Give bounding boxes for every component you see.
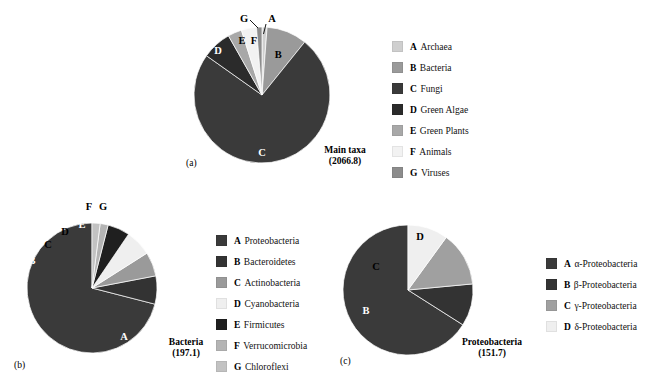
legend-swatch-icon [216,340,227,351]
legend-a-label: Viruses [421,168,449,178]
pie-slice-label-c: C [44,239,52,250]
legend-a-key: D [410,105,417,115]
panel-label-b: (b) [14,360,25,370]
legend-c-key: D [564,322,571,332]
legend-a-key: C [410,84,417,94]
panel-label-a: (a) [186,158,197,168]
legend-swatch-icon [392,167,403,178]
legend-b-label: Proteobacteria [244,236,299,246]
legend-a-label: Archaea [420,42,452,52]
legend-b-item-g: GChloroflexi [216,356,307,377]
legend-b-item-a: AProteobacteria [216,230,307,251]
legend-b-key: B [234,257,240,267]
legend-c-item-a: Aα-Proteobacteria [546,253,637,274]
legend-swatch-icon [216,256,227,267]
panel-label-c: (c) [340,356,351,366]
pie-slice-label-b: B [275,49,282,60]
legend-c-item-d: Dδ-Proteobacteria [546,316,637,337]
legend-b-key: C [234,278,241,288]
legend-c-key: B [564,280,570,290]
pie-slice-label-d: D [61,226,69,237]
legend-a-key: F [410,147,416,157]
pie-slice-label-c: C [258,147,266,158]
pie-slice-label-c: C [372,261,380,272]
legend-swatch-icon [216,361,227,372]
legend-a-item-b: BBacteria [392,57,469,78]
caption-a: Main taxa (2066.8) [295,145,395,167]
legend-c: Aα-ProteobacteriaBβ-ProteobacteriaCγ-Pro… [546,253,637,337]
pie-slice-label-e: E [238,35,245,46]
legend-b-item-e: EFirmicutes [216,314,307,335]
legend-swatch-icon [392,146,403,157]
caption-a-title: Main taxa [295,145,395,156]
legend-b-label: Chloroflexi [245,362,289,372]
legend-c-label: δ-Proteobacteria [574,322,637,332]
pie-slice-label-a: A [120,331,128,342]
legend-b-item-c: CActinobacteria [216,272,307,293]
legend-b: AProteobacteriaBBacteroidetesCActinobact… [216,230,307,377]
legend-a-item-f: FAnimals [392,141,469,162]
legend-a-key: E [410,126,416,136]
legend-a-item-d: DGreen Algae [392,99,469,120]
pie-slice-label-g: G [99,201,107,212]
legend-swatch-icon [546,279,557,290]
legend-b-key: G [234,362,241,372]
legend-c-label: β-Proteobacteria [574,280,637,290]
legend-b-key: E [234,320,240,330]
legend-swatch-icon [392,41,403,52]
legend-swatch-icon [392,125,403,136]
pie-slice-label-f: F [86,201,92,212]
pie-leader-line-g [250,20,258,28]
legend-a-item-e: EGreen Plants [392,120,469,141]
legend-swatch-icon [216,298,227,309]
caption-c-title: Proteobacteria [437,337,547,348]
legend-swatch-icon [216,235,227,246]
caption-c-total: (151.7) [437,348,547,359]
caption-c: Proteobacteria (151.7) [437,337,547,359]
legend-c-item-c: Cγ-Proteobacteria [546,295,637,316]
legend-b-label: Cyanobacteria [244,299,299,309]
pie-slice-label-b: B [28,255,35,266]
legend-a-label: Green Plants [420,126,469,136]
pie-slice-label-b: B [362,305,369,316]
legend-b-label: Actinobacteria [244,278,300,288]
caption-a-total: (2066.8) [295,156,395,167]
legend-b-item-f: FVerrucomicrobia [216,335,307,356]
legend-swatch-icon [392,62,403,73]
legend-a-label: Fungi [420,84,442,94]
figure-root: ABCDEFG Main taxa (2066.8) (a) AArchaeaB… [0,0,672,388]
legend-a-item-g: GViruses [392,162,469,183]
pie-chart-c: ABCD [330,222,495,384]
legend-a-key: A [410,42,417,52]
legend-b-label: Firmicutes [244,320,285,330]
pie-slice-label-g: G [240,13,248,24]
legend-b-label: Verrucomicrobia [243,341,307,351]
legend-c-label: γ-Proteobacteria [574,301,636,311]
legend-a-item-a: AArchaea [392,36,469,57]
legend-b-key: F [234,341,240,351]
pie-slice-label-e: E [78,219,85,230]
legend-swatch-icon [216,319,227,330]
pie-slice-label-f: F [251,35,257,46]
legend-c-key: C [564,301,571,311]
legend-a-key: G [410,168,417,178]
pie-slice-label-a: A [268,13,276,24]
legend-swatch-icon [546,300,557,311]
legend-b-item-b: BBacteroidetes [216,251,307,272]
legend-swatch-icon [216,277,227,288]
pie-slice-label-d: D [214,45,222,56]
legend-b-label: Bacteroidetes [244,257,296,267]
legend-swatch-icon [392,104,403,115]
legend-a-label: Green Algae [420,105,468,115]
legend-swatch-icon [392,83,403,94]
legend-a-label: Animals [419,147,451,157]
legend-b-key: D [234,299,241,309]
pie-chart-c-svg: ABCD [330,222,495,384]
legend-a-item-c: CFungi [392,78,469,99]
legend-b-item-d: DCyanobacteria [216,293,307,314]
pie-slice-label-d: D [416,231,424,242]
legend-swatch-icon [546,258,557,269]
legend-a-key: B [410,63,416,73]
legend-b-key: A [234,236,241,246]
legend-a: AArchaeaBBacteriaCFungiDGreen AlgaeEGree… [392,36,469,183]
